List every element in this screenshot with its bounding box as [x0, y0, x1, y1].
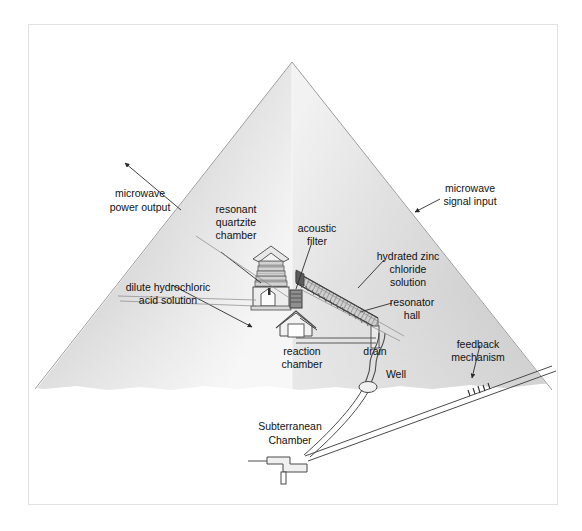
- label-resonator-hall-line2: hall: [404, 309, 420, 321]
- label-hydrated-zinc-chloride-solution-line2: chloride: [390, 263, 427, 275]
- label-hydrated-zinc-chloride-solution-line1: hydrated zinc: [377, 250, 439, 262]
- reaction-chamber-void: [288, 324, 304, 337]
- label-reaction-chamber: reaction chamber: [282, 345, 323, 370]
- label-resonator-hall-line1: resonator: [390, 296, 435, 308]
- label-microwave-signal-input-line1: microwave: [445, 182, 495, 194]
- quartzite-tower-shaft-mark: [268, 288, 271, 295]
- acoustic-filter-block: [290, 290, 302, 308]
- label-hydrated-zinc-chloride-solution-line3: solution: [390, 276, 426, 288]
- label-resonant-quartzite-chamber: resonant quartzite chamber: [216, 203, 257, 241]
- label-microwave-signal-input-line2: signal input: [443, 195, 496, 207]
- label-dilute-hydrochloric-acid-solution-line2: acid solution: [139, 294, 198, 306]
- label-resonant-quartzite-chamber-line3: chamber: [216, 229, 257, 241]
- label-drain: drain: [363, 345, 387, 357]
- label-well: Well: [386, 368, 406, 380]
- label-feedback-mechanism-line1: feedback: [457, 338, 500, 350]
- label-reaction-chamber-line1: reaction: [283, 345, 321, 357]
- subterranean-chamber-stub-shaft: [281, 472, 286, 484]
- quartzite-tower-plinth: [251, 306, 291, 310]
- label-feedback-mechanism: feedback mechanism: [451, 338, 505, 363]
- label-microwave-power-output-line2: power output: [110, 201, 171, 213]
- label-microwave-power-output-line1: microwave: [115, 187, 165, 199]
- label-subterranean-chamber-line1: Subterranean: [258, 420, 322, 432]
- label-resonant-quartzite-chamber-line2: quartzite: [216, 216, 256, 228]
- label-microwave-signal-input: microwave signal input: [443, 182, 496, 207]
- label-subterranean-chamber-line2: Chamber: [268, 434, 312, 446]
- pyramid-cutaway-diagram: microwave power output resonant quartzit…: [0, 0, 582, 531]
- label-dilute-hydrochloric-acid-solution-line1: dilute hydrochloric: [126, 281, 211, 293]
- label-acoustic-filter-line1: acoustic: [298, 222, 337, 234]
- label-feedback-mechanism-line2: mechanism: [451, 351, 505, 363]
- label-acoustic-filter-line2: filter: [307, 235, 327, 247]
- label-resonant-quartzite-chamber-line1: resonant: [216, 203, 257, 215]
- label-reaction-chamber-line2: chamber: [282, 358, 323, 370]
- diagram-figure: microwave power output resonant quartzit…: [0, 0, 582, 531]
